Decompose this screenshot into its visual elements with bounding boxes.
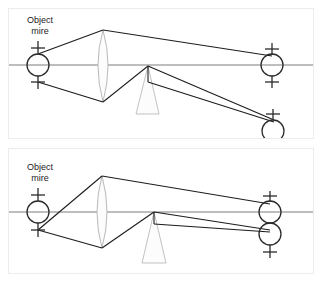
ray-upper-lens-to-image	[103, 30, 272, 56]
panel-top-canvas: Object mire	[9, 9, 313, 138]
ray-upper-to-lens	[38, 176, 102, 230]
ray-lower-to-lens	[38, 82, 103, 102]
target-circle	[259, 223, 281, 245]
ray-prism-to-deviated-upper	[148, 66, 274, 120]
ray-prism-to-deviated-lower	[148, 82, 274, 122]
panel-deviated: Object mire	[8, 8, 314, 139]
panel-bottom-canvas: Object mire	[9, 149, 313, 273]
ray-prism-to-image-upper	[154, 212, 270, 230]
object-mire-label-line2: mire	[31, 26, 49, 36]
image-target-deviated	[262, 109, 284, 138]
panel-aligned: Object mire	[8, 148, 314, 274]
ray-upper-lens-to-image	[102, 176, 270, 204]
ray-lower-lens-to-prism	[102, 212, 154, 248]
object-mire-label-line2: mire	[31, 173, 49, 183]
ray-prism-to-image-lower	[154, 224, 270, 232]
biconvex-lens	[98, 30, 108, 102]
target-circle	[262, 120, 284, 138]
image-target-upper	[259, 191, 281, 223]
ray-lower-to-lens	[38, 230, 102, 248]
biconvex-lens	[97, 176, 107, 248]
optical-ray-diagram-figure: Object mire	[0, 0, 333, 282]
object-mire-label-line1: Object	[27, 162, 54, 172]
object-mire-label-line1: Object	[27, 15, 54, 25]
